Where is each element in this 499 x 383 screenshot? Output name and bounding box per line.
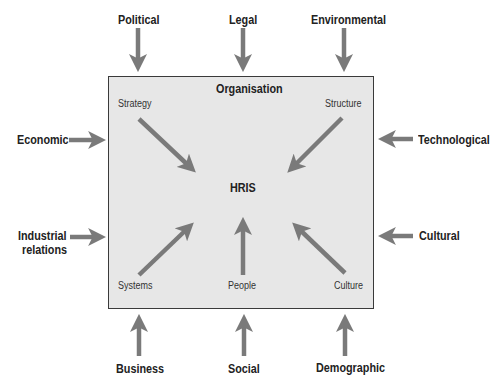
label-demographic: Demographic [316,361,385,375]
organisation-title: Organisation [216,82,283,96]
label-systems: Systems [118,280,153,291]
label-business: Business [116,362,164,376]
arrow-structure [293,118,342,167]
label-structure: Structure [325,98,362,109]
label-political: Political [118,13,159,27]
label-industrial: Industrial [18,229,67,243]
label-culture: Culture [334,280,363,291]
label-strategy: Strategy [118,98,152,109]
label-people: People [228,280,256,291]
label-social: Social [228,362,260,376]
arrow-systems [139,228,188,275]
label-cultural: Cultural [419,229,460,243]
label-technological: Technological [418,133,490,147]
label-relations: relations [22,243,67,257]
label-legal: Legal [229,13,257,27]
label-economic: Economic [17,133,69,147]
arrow-culture [298,228,345,273]
label-environmental: Environmental [311,13,386,27]
arrow-strategy [139,119,190,167]
hris-label: HRIS [230,181,256,195]
